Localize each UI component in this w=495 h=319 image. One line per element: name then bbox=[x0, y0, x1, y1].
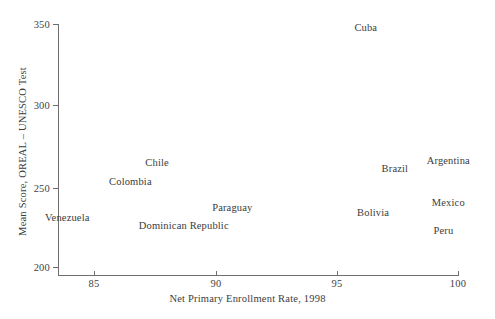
x-tick-label-90: 90 bbox=[196, 278, 236, 289]
y-axis-line bbox=[58, 24, 59, 276]
data-point-label: Bolivia bbox=[357, 206, 389, 217]
y-tick-mark-350 bbox=[53, 24, 58, 25]
data-point-label: Mexico bbox=[432, 197, 465, 208]
x-tick-mark-95 bbox=[337, 271, 338, 276]
data-point-label: Brazil bbox=[382, 163, 409, 174]
x-tick-label-85: 85 bbox=[74, 278, 114, 289]
y-axis-title: Mean Score, OREAL – UNESCO Test bbox=[17, 52, 28, 252]
data-point-label: Argentina bbox=[427, 155, 470, 166]
data-point-label: Cuba bbox=[354, 22, 377, 33]
data-point-label: Chile bbox=[145, 156, 169, 167]
x-tick-label-95: 95 bbox=[317, 278, 357, 289]
y-tick-mark-200 bbox=[53, 267, 58, 268]
x-tick-mark-90 bbox=[216, 271, 217, 276]
data-point-label: Peru bbox=[433, 224, 453, 235]
x-axis-line bbox=[58, 275, 459, 276]
x-tick-mark-100 bbox=[458, 271, 459, 276]
x-axis-title: Net Primary Enrollment Rate, 1998 bbox=[0, 293, 495, 304]
data-point-label: Colombia bbox=[109, 176, 152, 187]
data-point-label: Dominican Republic bbox=[139, 219, 229, 230]
x-tick-mark-85 bbox=[94, 271, 95, 276]
data-point-label: Venezuela bbox=[45, 211, 90, 222]
x-tick-label-100: 100 bbox=[438, 278, 478, 289]
y-tick-label-350: 350 bbox=[20, 19, 50, 30]
y-tick-mark-250 bbox=[53, 188, 58, 189]
data-point-label: Paraguay bbox=[212, 202, 252, 213]
scatter-plot-figure: 350 300 250 200 85 90 95 100 CubaArgenti… bbox=[0, 0, 495, 319]
y-tick-label-200: 200 bbox=[20, 262, 50, 273]
y-tick-mark-300 bbox=[53, 105, 58, 106]
plot-area: 350 300 250 200 85 90 95 100 CubaArgenti… bbox=[0, 0, 495, 319]
